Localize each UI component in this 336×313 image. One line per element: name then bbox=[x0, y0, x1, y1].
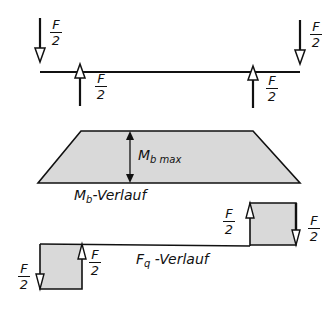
beam-diagram: F 2 F 2 F 2 F 2 Mb max Mb-Verlauf Fq -Ve… bbox=[0, 0, 336, 313]
load-label-left-support: F 2 bbox=[95, 72, 107, 101]
reaction-arrow-left-support-icon bbox=[75, 64, 85, 106]
load-arrow-left-end-icon bbox=[35, 18, 45, 62]
load-label-right-end: F 2 bbox=[310, 20, 322, 49]
load-label-left-end: F 2 bbox=[50, 18, 62, 47]
load-label-right-support: F 2 bbox=[266, 74, 278, 103]
shear-label-right-up: F 2 bbox=[223, 207, 235, 236]
shear-diagram bbox=[36, 203, 300, 289]
load-arrow-right-end-icon bbox=[295, 20, 305, 64]
shear-label-left-up: F 2 bbox=[89, 248, 101, 277]
moment-diagram-title: Mb-Verlauf bbox=[74, 188, 146, 205]
shear-label-left-down: F 2 bbox=[18, 262, 30, 291]
moment-max-label: Mb max bbox=[138, 148, 181, 165]
shear-diagram-title: Fq -Verlauf bbox=[136, 252, 209, 269]
shear-label-right-down: F 2 bbox=[308, 214, 320, 243]
